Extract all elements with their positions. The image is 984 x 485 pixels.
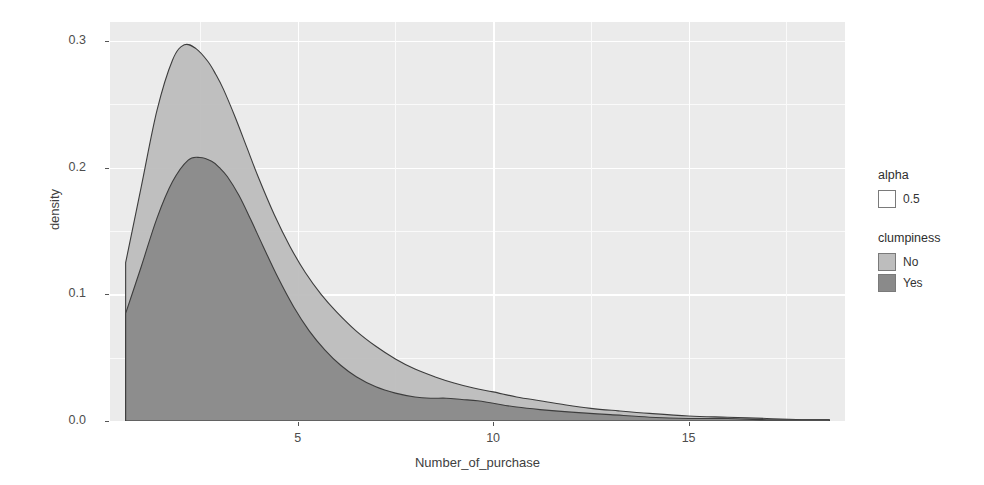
legend-item-no[interactable]: No <box>878 251 941 272</box>
legend-swatch-icon <box>878 190 896 208</box>
plot-panel <box>110 22 845 421</box>
legend-item-0.5[interactable]: 0.5 <box>878 188 941 209</box>
y-tick-mark <box>105 168 109 169</box>
legend-label: Yes <box>903 276 923 290</box>
legend-block-clumpiness: clumpinessNoYes <box>878 231 941 293</box>
legend-label: No <box>903 255 918 269</box>
y-tick-label: 0.0 <box>69 413 86 427</box>
y-tick-mark <box>105 41 109 42</box>
legend: alpha0.5clumpinessNoYes <box>878 168 941 315</box>
y-tick-mark <box>105 294 109 295</box>
density-plot-figure: a strange incident occurred in the crowd… <box>0 0 984 485</box>
y-axis-title: density <box>47 150 62 270</box>
x-tick-mark <box>298 422 299 426</box>
y-tick-mark <box>105 421 109 422</box>
legend-item-yes[interactable]: Yes <box>878 272 941 293</box>
x-tick-label: 15 <box>669 431 709 445</box>
x-tick-mark <box>689 422 690 426</box>
legend-swatch-icon <box>878 274 896 292</box>
x-tick-label: 10 <box>473 431 513 445</box>
legend-label: 0.5 <box>903 192 920 206</box>
y-tick-label: 0.3 <box>69 33 86 47</box>
y-tick-label: 0.2 <box>69 160 86 174</box>
y-tick-label: 0.1 <box>69 286 86 300</box>
density-area-yes <box>126 157 830 421</box>
legend-title: alpha <box>878 168 941 182</box>
legend-block-alpha: alpha0.5 <box>878 168 941 209</box>
x-axis-title: Number_of_purchase <box>110 455 845 470</box>
legend-swatch-icon <box>878 253 896 271</box>
x-tick-label: 5 <box>278 431 318 445</box>
density-curves <box>110 22 845 421</box>
x-tick-mark <box>493 422 494 426</box>
legend-title: clumpiness <box>878 231 941 245</box>
